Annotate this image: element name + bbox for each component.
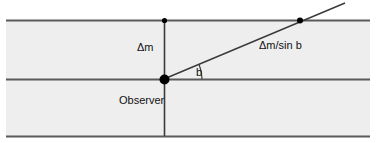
- diagram-canvas: [0, 0, 376, 143]
- ray-top-crossing-dot: [297, 18, 303, 24]
- shaded-band: [6, 20, 370, 136]
- top-intersection-dot: [162, 18, 167, 23]
- angle-b-label: b: [196, 67, 202, 78]
- delta-m-label: Δm: [137, 42, 154, 53]
- observer-dot: [160, 75, 170, 85]
- delta-m-over-sin-b-label: Δm/sin b: [259, 40, 302, 51]
- observer-label: Observer: [119, 95, 164, 106]
- atmospheric-path-diagram: Δm Δm/sin b b Observer: [0, 0, 376, 143]
